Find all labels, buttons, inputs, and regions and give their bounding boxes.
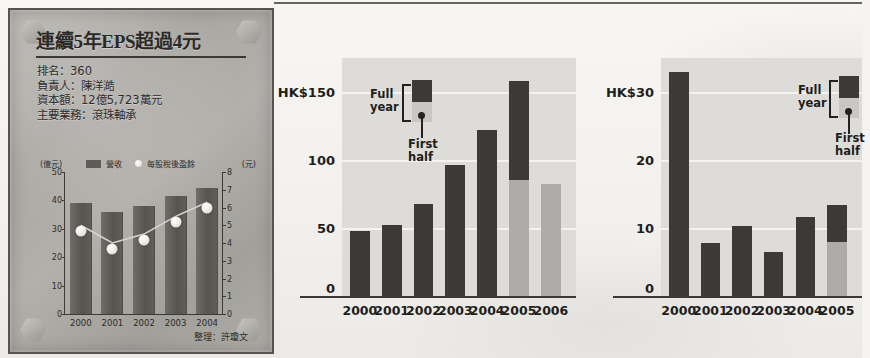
top-horizontal-rule: [274, 2, 862, 4]
legend-swatch-full-year: [412, 80, 432, 102]
hk30-legend: Full year First half: [798, 74, 870, 170]
left-tick-mark: [62, 257, 65, 258]
bar-full-year: [764, 252, 784, 296]
x-tick-label: 2003: [756, 303, 791, 318]
left-tick-mark: [62, 229, 65, 230]
legend-full-year-line2: year: [798, 97, 827, 110]
bar-full-year: [796, 217, 816, 296]
right-tick-mark: [223, 172, 226, 173]
fact-business: 主要業務：滾珠軸承: [37, 108, 257, 123]
x-tick-label: 2004: [788, 303, 823, 318]
right-y-tick: 3: [227, 256, 232, 265]
fact-chairman: 負責人：陳洋澔: [37, 79, 257, 94]
chart-credit: 整理：許瓊文: [194, 330, 248, 343]
table-row: [101, 212, 123, 314]
eps-marker: [202, 202, 213, 213]
x-tick-label: 2002: [406, 303, 441, 318]
right-y-tick: 2: [227, 274, 232, 283]
legend-first-half-line2: half: [835, 145, 860, 158]
x-tick-label: 2002: [725, 303, 760, 318]
legend-first-half-line2: half: [408, 151, 433, 164]
legend-full-year-line1: Full: [798, 84, 821, 97]
x-tick-label: 2000: [342, 303, 377, 318]
x-tick-label: 2005: [820, 303, 855, 318]
bar-full-year: [382, 225, 402, 296]
left-tick-mark: [62, 286, 65, 287]
revenue-eps-chart: (億元) (元) 營收 每股稅後盈餘 50403020100 876543210…: [34, 158, 256, 344]
bar-first-half: [541, 184, 561, 296]
legend-full-year-line1: Full: [370, 88, 393, 101]
hk30-plot-area: HK$3020100 Full year First half: [661, 58, 862, 296]
left-y-tick: 30: [52, 224, 62, 233]
right-tick-mark: [223, 261, 226, 262]
table-row: [165, 196, 187, 314]
left-y-tick: 50: [52, 168, 62, 177]
left-tick-mark: [62, 314, 65, 315]
legend-label-revenue: 營收: [106, 158, 122, 169]
y-tick-label: HK$150: [278, 85, 335, 100]
hk150-plot-area: HK$150100500 Full year First half: [342, 58, 576, 296]
bar-full-year: [732, 226, 752, 296]
left-y-tick: 40: [52, 196, 62, 205]
y-tick-label: 0: [645, 281, 654, 296]
y-tick-label: 50: [317, 221, 335, 236]
y-tick-label: 20: [636, 153, 654, 168]
right-y-tick: 7: [227, 185, 232, 194]
left-tick-mark: [62, 200, 65, 201]
right-y-tick: 8: [227, 168, 232, 177]
x-tick-label: 2003: [438, 303, 473, 318]
legend-swatch-revenue: [86, 160, 101, 168]
x-tick-label: 2000: [70, 318, 92, 328]
hk150-baseline: [300, 296, 576, 298]
bar-full-year: [477, 130, 497, 296]
bar-full-year: [701, 243, 721, 296]
x-tick-label: 2001: [102, 318, 124, 328]
eps-marker: [107, 243, 118, 254]
company-info-plaque: 連續5年EPS超過4元 排名：360 負責人：陳洋澔 資本額：12億5,723萬…: [8, 8, 274, 354]
eps-marker: [139, 234, 150, 245]
hk30-baseline: [613, 296, 862, 298]
x-tick-label: 2003: [165, 318, 187, 328]
chart-legend: 營收 每股稅後盈餘: [86, 158, 195, 169]
hk30-bar-chart: HK$3020100 Full year First half 20002001…: [613, 58, 862, 326]
y-tick-label: HK$30: [606, 85, 654, 100]
x-tick-label: 2004: [196, 318, 218, 328]
bar-full-year: [350, 231, 370, 296]
revenue-eps-plot-area: 50403020100 876543210 200020012002200320…: [64, 172, 223, 315]
bar-full-year: [827, 205, 847, 242]
right-tick-mark: [223, 208, 226, 209]
eps-marker: [170, 216, 181, 227]
right-y-tick: 5: [227, 221, 232, 230]
hk150-legend: Full year First half: [370, 76, 474, 172]
legend-label-eps: 每股稅後盈餘: [147, 158, 195, 169]
eps-marker: [75, 225, 86, 236]
table-row: [70, 203, 92, 314]
legend-full-year-line2: year: [370, 101, 399, 114]
legend-first-half-line1: First: [835, 132, 865, 145]
legend-leader-line-icon: [421, 116, 423, 138]
right-tick-mark: [223, 225, 226, 226]
x-tick-label: 2002: [133, 318, 155, 328]
right-tick-mark: [223, 296, 226, 297]
bar-full-year: [445, 165, 465, 296]
legend-bracket-icon: [829, 80, 838, 118]
x-tick-label: 2001: [374, 303, 409, 318]
y-tick-label: 0: [326, 281, 335, 296]
legend-bracket-icon: [402, 84, 411, 122]
hk150-bar-chart: HK$150100500 Full year First half 200020…: [300, 58, 576, 326]
bar-full-year: [669, 72, 689, 296]
bar-first-half: [509, 180, 529, 296]
right-y-tick: 0: [227, 310, 232, 319]
x-tick-label: 2000: [661, 303, 696, 318]
bar-first-half: [827, 242, 847, 296]
right-tick-mark: [223, 243, 226, 244]
right-tick-mark: [223, 279, 226, 280]
right-axis-unit-label: (元): [242, 158, 256, 169]
right-tick-mark: [223, 314, 226, 315]
left-y-tick: 10: [52, 281, 62, 290]
bar-full-year: [509, 81, 529, 180]
table-row: [133, 206, 155, 314]
x-tick-label: 2001: [693, 303, 728, 318]
right-y-tick: 4: [227, 239, 232, 248]
y-tick-label: 100: [308, 153, 335, 168]
